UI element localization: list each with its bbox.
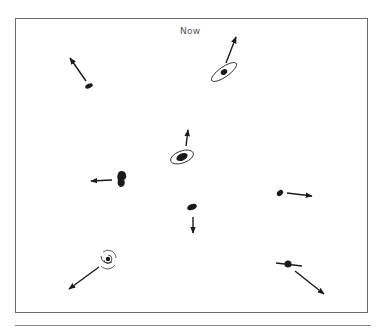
- velocity-arrow-icon: [70, 58, 86, 81]
- bottom-divider: [15, 325, 371, 326]
- galaxy-bottom-right: [276, 261, 324, 295]
- galaxy-icon: [285, 261, 292, 268]
- galaxy-top-right: [209, 37, 239, 85]
- galaxy-left: [91, 171, 126, 187]
- galaxy-icon: [186, 202, 197, 211]
- velocity-arrow-icon: [69, 267, 99, 289]
- velocity-arrow-icon: [226, 37, 236, 63]
- galaxy-expansion-diagram: [0, 0, 383, 330]
- galaxy-icon: [106, 257, 110, 261]
- velocity-arrow-icon: [186, 130, 188, 146]
- spiral-arm-icon: [101, 265, 115, 269]
- galaxy-icon: [117, 171, 126, 187]
- galaxy-icon: [276, 189, 285, 197]
- velocity-arrow-icon: [91, 180, 112, 181]
- velocity-arrow-icon: [287, 193, 312, 196]
- galaxy-center-lower: [186, 202, 197, 233]
- galaxy-icon: [220, 68, 229, 76]
- galaxy-center: [169, 130, 196, 167]
- spiral-arm-icon: [103, 250, 116, 258]
- galaxy-bottom-left: [69, 250, 116, 289]
- galaxy-right: [276, 189, 312, 197]
- velocity-arrow-icon: [295, 271, 324, 294]
- galaxy-top-left: [70, 58, 94, 90]
- galaxy-icon: [84, 82, 93, 89]
